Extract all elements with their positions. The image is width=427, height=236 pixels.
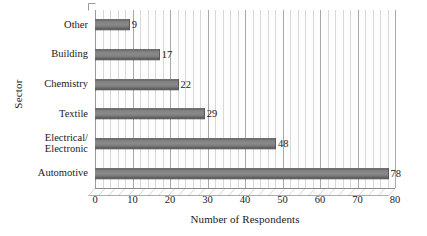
plot-area: 78482922179 [95,10,395,188]
y-axis-tick-label: Electrical/ Electronic [20,133,88,154]
bar [95,19,130,30]
y-axis-tick-label: Textile [20,109,88,120]
gridline-minor [200,10,201,188]
x-axis-tick-label: 70 [343,194,373,205]
gridline-minor [373,10,374,188]
gridline-minor [350,10,351,188]
gridline-minor [335,10,336,188]
x-axis-tick-label: 60 [305,194,335,205]
chart-wall-top-corner [88,3,96,11]
bar [95,138,276,149]
gridline-minor [343,10,344,188]
gridline-minor [223,10,224,188]
gridline-major [170,10,171,188]
chart-left-wall [88,10,96,188]
gridline-major [320,10,321,188]
gridline-major [283,10,284,188]
gridline-minor [193,10,194,188]
y-axis-tick-label: Other [20,20,88,31]
gridline-minor [148,10,149,188]
gridline-minor [328,10,329,188]
x-axis-tick-label: 0 [80,194,110,205]
gridline-minor [118,10,119,188]
gridline-minor [260,10,261,188]
bar-value-label: 9 [132,19,137,30]
x-axis-line [95,188,395,189]
x-axis-tick-labels: 01020304050607080 [95,194,395,208]
gridline-minor [298,10,299,188]
y-axis-tick-labels: AutomotiveElectrical/ ElectronicTextileC… [20,10,88,188]
bar [95,168,389,179]
gridline-major [358,10,359,188]
gridline-minor [185,10,186,188]
gridline-minor [215,10,216,188]
gridline-major [395,10,396,188]
gridline-minor [290,10,291,188]
x-axis-title: Number of Respondents [95,213,395,225]
y-axis-tick-label: Automotive [20,168,88,179]
gridline-minor [163,10,164,188]
bar [95,79,179,90]
y-axis-tick-label: Chemistry [20,79,88,90]
gridline-minor [388,10,389,188]
gridline-minor [275,10,276,188]
gridline-minor [268,10,269,188]
gridline-minor [313,10,314,188]
gridline-minor [305,10,306,188]
gridline-minor [103,10,104,188]
gridline-minor [178,10,179,188]
gridline-minor [125,10,126,188]
gridline-minor [238,10,239,188]
x-axis-tick-label: 30 [193,194,223,205]
gridline-minor [155,10,156,188]
gridline-minor [110,10,111,188]
bar-chart: Sector AutomotiveElectrical/ ElectronicT… [0,0,427,236]
gridline-minor [365,10,366,188]
gridline-minor [380,10,381,188]
bar [95,108,205,119]
gridline-minor [140,10,141,188]
bar [95,49,160,60]
gridline-minor [230,10,231,188]
bar-value-label: 17 [162,49,173,60]
x-axis-tick-label: 40 [230,194,260,205]
gridline-major [133,10,134,188]
x-axis-tick-label: 20 [155,194,185,205]
gridline-major [208,10,209,188]
gridline-major [245,10,246,188]
bar-value-label: 29 [207,108,218,119]
bar-value-label: 78 [391,168,402,179]
bar-value-label: 22 [181,79,192,90]
x-axis-tick-label: 80 [380,194,410,205]
y-axis-tick-label: Building [20,49,88,60]
gridline-minor [253,10,254,188]
x-axis-tick-label: 10 [118,194,148,205]
bar-value-label: 48 [278,138,289,149]
x-axis-tick-label: 50 [268,194,298,205]
